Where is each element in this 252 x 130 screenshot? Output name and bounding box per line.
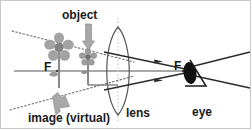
optics-ray-diagram-figure: object lens eye F F image (virtual) [0, 0, 252, 130]
object-flower-center [85, 54, 91, 60]
object-label: object [62, 9, 97, 21]
focal-point-left-label: F [44, 61, 51, 73]
virtual-image-label: image (virtual) [28, 112, 110, 124]
object-pointer-arrow [83, 24, 95, 50]
dotted-lower-construction-line [10, 76, 134, 110]
focal-point-left-dot [56, 70, 58, 72]
eye-label: eye [192, 106, 212, 118]
eye-pupil-ellipse [182, 61, 198, 85]
lens-label: lens [126, 107, 150, 119]
virtual-image-flower-center [54, 43, 63, 52]
ray-diverging-upper-right [186, 52, 250, 68]
focal-point-right-label: F [174, 60, 181, 72]
